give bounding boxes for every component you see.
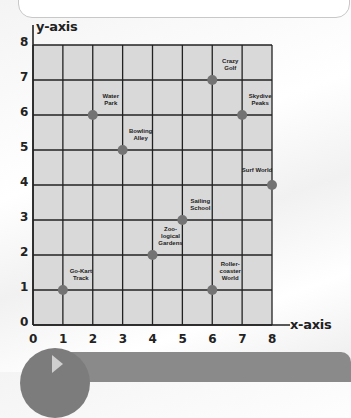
y-tick-label: 1 [20,280,28,294]
point-label: Crazy Golf [210,58,250,72]
y-tick-label: 3 [20,210,28,224]
data-point [237,110,247,120]
bottom-banner [60,352,351,382]
x-tick-label: 3 [119,332,127,346]
data-point [88,110,98,120]
data-point [267,180,277,190]
y-tick-label: 2 [20,245,28,259]
x-tick-label: 1 [59,332,67,346]
x-tick-label: 5 [178,332,186,346]
data-point [207,285,217,295]
point-label: Bowling Alley [121,128,161,142]
play-arrow-icon [52,355,63,373]
data-point [118,145,128,155]
coordinate-grid-chart: y-axis x-axis 012345678012345678 Go-Kart… [0,0,351,345]
x-tick-label: 6 [208,332,216,346]
x-tick-label: 0 [29,332,37,346]
point-label: Zoo- logical Gardens [151,226,191,247]
point-label: Water Park [91,93,131,107]
y-axis-title: y-axis [36,19,77,34]
data-point [207,75,217,85]
data-point [177,215,187,225]
x-tick-label: 8 [268,332,276,346]
data-point [148,250,158,260]
x-tick-label: 7 [238,332,246,346]
point-label: Roller- coaster World [210,261,250,282]
x-tick-label: 2 [89,332,97,346]
data-point [58,285,68,295]
point-label: Skydive Peaks [240,93,280,107]
y-tick-label: 8 [20,35,28,49]
y-tick-label: 0 [20,315,28,329]
point-label: Surf World [238,167,276,174]
point-label: Go-Kart Track [61,268,101,282]
x-tick-label: 4 [149,332,157,346]
y-tick-label: 4 [20,175,28,189]
y-tick-label: 5 [20,140,28,154]
y-tick-label: 7 [20,70,28,84]
point-label: Sailing School [180,198,220,212]
y-tick-label: 6 [20,105,28,119]
grid-plot [0,0,351,345]
x-axis-title: x-axis [290,317,331,332]
